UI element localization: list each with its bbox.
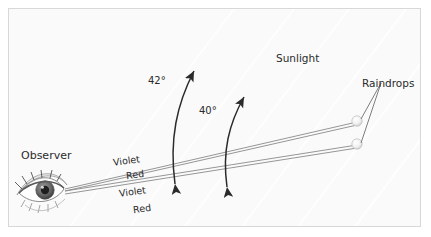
diagram-frame: Observer Sunlight Raindrops 42° 40° Viol… (8, 8, 421, 227)
ray-red-lower (65, 148, 357, 194)
raindrop-lower (352, 139, 362, 149)
figure-root: Observer Sunlight Raindrops 42° 40° Viol… (0, 0, 431, 237)
ray-violet-upper (65, 122, 357, 189)
label-sunlight: Sunlight (276, 52, 319, 64)
angle-arc-40 (225, 97, 244, 187)
label-ray-red-lower: Red (132, 202, 151, 215)
ray-violet-lower (65, 145, 357, 191)
ray-red-upper (65, 125, 357, 191)
observer-eye-illustration (15, 170, 67, 213)
raindrop-upper (352, 116, 362, 126)
label-observer: Observer (21, 149, 71, 162)
label-angle-42: 42° (148, 75, 166, 86)
label-angle-40: 40° (199, 105, 217, 116)
label-raindrops: Raindrops (362, 77, 414, 89)
raindrop-leader-lines (361, 83, 381, 143)
diagram-canvas (9, 9, 421, 227)
label-ray-red-upper: Red (125, 168, 144, 181)
